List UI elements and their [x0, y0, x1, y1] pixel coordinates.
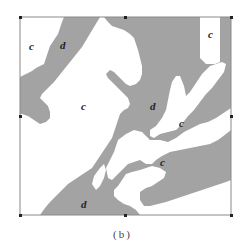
tick-bottom-middle [124, 214, 127, 217]
tick-top-middle [124, 16, 127, 19]
region-c-top-right [200, 17, 220, 64]
label-d-upper-left: d [60, 40, 66, 51]
label-c-right-strip: c [179, 118, 184, 129]
tick-right-middle [230, 115, 233, 118]
figure-caption: (b) [0, 228, 245, 240]
tick-top-left [19, 16, 22, 19]
label-c-upper-left: c [29, 41, 34, 52]
label-d-center: d [150, 101, 156, 112]
label-c-center-left: c [81, 101, 86, 112]
label-c-top-right: c [208, 29, 213, 40]
label-d-bottom: d [81, 199, 87, 210]
tick-bottom-right [230, 214, 233, 217]
tick-bottom-left [19, 214, 22, 217]
label-c-center-lower: c [160, 157, 165, 168]
tick-top-right [230, 16, 233, 19]
tick-left-middle [19, 115, 22, 118]
